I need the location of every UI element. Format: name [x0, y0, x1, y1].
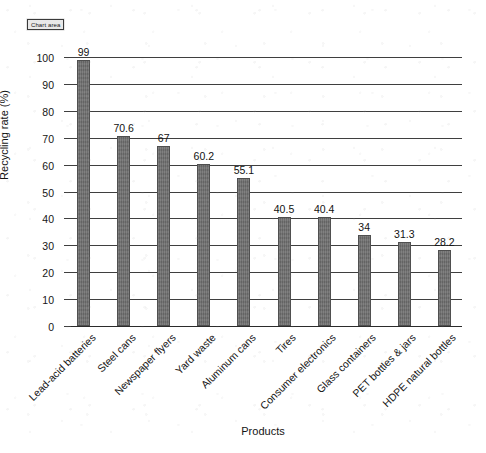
bar-value-label: 60.2	[194, 151, 214, 164]
y-tick-10: 10	[64, 299, 71, 300]
y-tick-label-70: 70	[42, 133, 54, 144]
bar[interactable]	[318, 217, 331, 326]
y-tick-label-0: 0	[48, 322, 54, 333]
bar-value-label: 55.1	[234, 165, 254, 178]
x-axis-title: Products	[0, 425, 486, 437]
y-tick-label-60: 60	[42, 160, 54, 171]
y-tick-30: 30	[64, 245, 71, 246]
y-tick-70: 70	[64, 138, 71, 139]
bar-value-label: 67	[158, 133, 170, 146]
y-tick-20: 20	[64, 272, 71, 273]
x-axis-title-text: Products	[241, 425, 284, 437]
y-tick-100: 100	[64, 57, 71, 58]
y-tick-label-50: 50	[42, 187, 54, 198]
y-axis-title: Recycling rate (%)	[0, 90, 10, 180]
bar-value-label: 40.5	[274, 204, 294, 217]
y-tick-0: 0	[64, 326, 71, 327]
bar[interactable]	[77, 60, 90, 326]
bar-value-label: 70.6	[113, 123, 133, 136]
y-tick-40: 40	[64, 218, 71, 219]
bar-series[interactable]: 9970.66760.255.140.540.43431.328.2	[71, 57, 462, 326]
y-tick-90: 90	[64, 84, 71, 85]
y-tick-label-100: 100	[36, 53, 54, 64]
recycling-rate-bar-chart: Chart area 1009080706050403020100 9970.6…	[0, 0, 486, 453]
chart-area-tooltip: Chart area	[27, 19, 64, 30]
y-tick-label-30: 30	[42, 241, 54, 252]
y-tick-label-90: 90	[42, 80, 54, 91]
bar-value-label: 28.2	[434, 237, 454, 250]
bar-value-label: 40.4	[314, 204, 334, 217]
plot-area[interactable]: 1009080706050403020100 9970.66760.255.14…	[71, 57, 462, 326]
y-tick-label-10: 10	[42, 295, 54, 306]
bar-value-label: 31.3	[394, 229, 414, 242]
y-tick-label-40: 40	[42, 214, 54, 225]
y-tick-label-20: 20	[42, 268, 54, 279]
bar-value-label: 34	[358, 222, 370, 235]
y-tick-50: 50	[64, 192, 71, 193]
bar-value-label: 99	[78, 47, 90, 60]
y-tick-60: 60	[64, 165, 71, 166]
y-tick-80: 80	[64, 111, 71, 112]
y-tick-label-80: 80	[42, 107, 54, 118]
